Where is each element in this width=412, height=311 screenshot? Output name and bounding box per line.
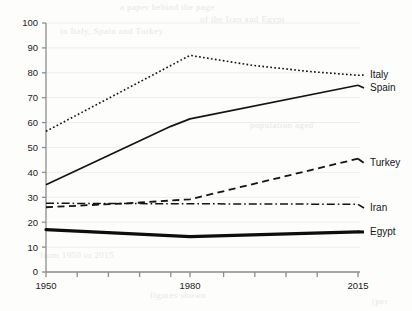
y-tick-label: 100 [22, 17, 38, 28]
x-axis [46, 272, 360, 277]
y-tick-label: 40 [27, 167, 38, 178]
y-tick-label: 10 [27, 242, 38, 253]
x-tick-label: 2015 [347, 280, 368, 291]
y-tick-label: 30 [27, 192, 38, 203]
y-axis [42, 23, 46, 272]
series-labels: ItalySpainTurkeyIranEgypt [370, 69, 400, 237]
x-tick-labels: 195019802015 [35, 280, 368, 291]
y-tick-label: 60 [27, 117, 38, 128]
leader-iran [358, 204, 364, 208]
y-tick-label: 0 [33, 266, 38, 277]
series-label-spain: Spain [370, 82, 396, 93]
line-chart: a paper behind the page in Italy, Spain … [0, 0, 412, 311]
y-tick-label: 20 [27, 217, 38, 228]
y-tick-label: 50 [27, 142, 38, 153]
y-tick-labels: 0102030405060708090100 [22, 17, 38, 277]
series-line-iran [46, 203, 358, 204]
series-lines [46, 55, 358, 236]
x-tick-label: 1950 [35, 280, 56, 291]
x-tick-label: 1980 [179, 280, 200, 291]
series-line-turkey [46, 159, 358, 208]
series-label-egypt: Egypt [370, 226, 396, 237]
series-label-italy: Italy [370, 69, 388, 80]
leader-spain [358, 85, 364, 88]
chart-canvas: 0102030405060708090100 195019802015 Ital… [0, 0, 412, 311]
y-tick-label: 90 [27, 42, 38, 53]
series-label-turkey: Turkey [370, 157, 400, 168]
y-tick-label: 80 [27, 67, 38, 78]
series-line-egypt [46, 230, 358, 237]
leader-turkey [358, 159, 364, 163]
y-tick-label: 70 [27, 92, 38, 103]
series-line-italy [46, 55, 358, 131]
series-label-iran: Iran [370, 202, 387, 213]
series-leader-lines [358, 75, 364, 232]
